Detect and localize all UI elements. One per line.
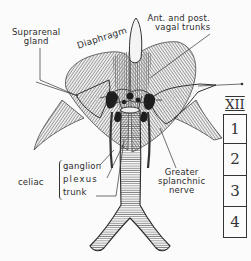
label-celiac-parts: ganglion plexus trunk (63, 160, 101, 199)
diagram-canvas: Suprarenal gland Ant. and post. vagal tr… (0, 0, 251, 261)
vertebra-l1: 1 (223, 114, 247, 144)
label-suprarenal-gland: Suprarenal gland (12, 28, 60, 46)
label-ganglion: ganglion (63, 160, 101, 173)
esophagus (129, 18, 141, 63)
label-vagal-trunks: Ant. and post. vagal trunks (147, 14, 210, 32)
vertebra-l2: 2 (223, 143, 247, 176)
label-vagal-line2: vagal trunks (147, 23, 210, 32)
label-plexus: plexus (63, 173, 101, 186)
label-suprarenal-line2: gland (12, 37, 60, 46)
vertebra-label-xii: XII (223, 98, 247, 112)
left-greater-splanchnic-nerve (111, 112, 113, 168)
label-celiac: celiac (18, 178, 44, 187)
vertebra-l3: 3 (223, 175, 247, 207)
label-greater-splanchnic-nerve: Greater splanchnic nerve (158, 168, 205, 195)
label-nerve: nerve (158, 186, 205, 195)
label-trunk: trunk (63, 186, 101, 199)
vertebra-l4: 4 (223, 206, 247, 238)
